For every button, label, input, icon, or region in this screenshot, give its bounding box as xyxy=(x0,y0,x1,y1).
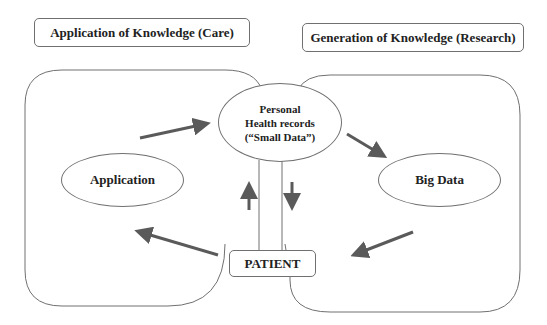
big-data-node: Big Data xyxy=(378,153,501,207)
arrow-to-phr xyxy=(140,124,205,138)
application-label: Application xyxy=(90,172,155,188)
arrow-to-patient xyxy=(356,232,413,254)
patient-node: PATIENT xyxy=(229,250,316,277)
patient-label: PATIENT xyxy=(245,256,301,272)
application-node: Application xyxy=(61,153,184,207)
research-header: Generation of Knowledge (Research) xyxy=(302,23,524,52)
big-data-label: Big Data xyxy=(415,172,464,188)
care-header-label: Application of Knowledge (Care) xyxy=(50,25,234,41)
arrow-to-application xyxy=(140,232,218,255)
phr-node: Personal Health records (“Small Data”) xyxy=(218,83,342,162)
care-header: Application of Knowledge (Care) xyxy=(34,18,250,47)
knowledge-cycle-diagram: Application of Knowledge (Care) Generati… xyxy=(0,0,547,325)
arrow-to-bigdata xyxy=(347,134,382,155)
phr-line3: (“Small Data”) xyxy=(245,130,316,144)
research-header-label: Generation of Knowledge (Research) xyxy=(310,30,515,46)
phr-line1: Personal xyxy=(245,102,316,116)
phr-line2: Health records xyxy=(245,116,316,130)
